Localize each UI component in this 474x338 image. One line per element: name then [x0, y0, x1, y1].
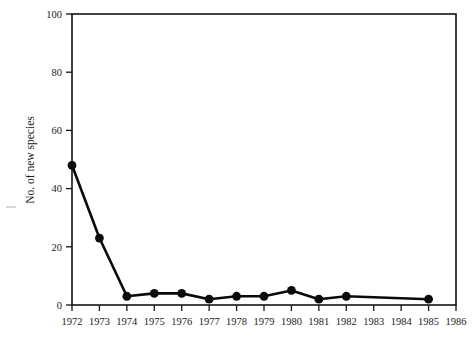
- x-axis-tick-labels: 1972197319741975197619771978197919801981…: [62, 316, 467, 327]
- line-chart-plot: 020406080100 197219731974197519761977197…: [0, 0, 474, 338]
- data-point-marker: [150, 289, 159, 298]
- x-tick-label: 1982: [336, 316, 357, 327]
- x-tick-label: 1979: [254, 316, 275, 327]
- x-tick-label: 1986: [446, 316, 467, 327]
- data-point-marker: [232, 292, 241, 301]
- x-tick-label: 1975: [144, 316, 165, 327]
- data-point-marker: [122, 292, 131, 301]
- x-tick-label: 1985: [418, 316, 439, 327]
- data-point-marker: [205, 295, 214, 304]
- x-tick-label: 1974: [116, 316, 138, 327]
- data-point-marker: [342, 292, 351, 301]
- x-tick-label: 1977: [199, 316, 220, 327]
- x-tick-label: 1983: [363, 316, 384, 327]
- data-point-marker: [287, 286, 296, 295]
- y-tick-label: 100: [46, 9, 62, 20]
- y-tick-label: 80: [52, 67, 63, 78]
- x-tick-label: 1978: [226, 316, 247, 327]
- x-tick-label: 1973: [89, 316, 110, 327]
- x-tick-label: 1984: [391, 316, 413, 327]
- scan-artifact: [6, 206, 16, 208]
- chart-figure: 020406080100 197219731974197519761977197…: [0, 0, 474, 338]
- y-tick-label: 60: [52, 125, 63, 136]
- x-tick-label: 1981: [308, 316, 329, 327]
- y-tick-label: 0: [57, 300, 62, 311]
- data-point-marker: [68, 161, 77, 170]
- x-tick-label: 1972: [62, 316, 83, 327]
- y-tick-label: 40: [52, 183, 63, 194]
- x-tick-label: 1976: [171, 316, 192, 327]
- x-tick-label: 1980: [281, 316, 302, 327]
- data-point-marker: [177, 289, 186, 298]
- y-axis-title: No. of new species: [24, 116, 37, 204]
- data-point-marker: [314, 295, 323, 304]
- y-tick-label: 20: [52, 242, 63, 253]
- data-point-marker: [95, 234, 104, 243]
- data-point-marker: [424, 295, 433, 304]
- data-point-marker: [260, 292, 269, 301]
